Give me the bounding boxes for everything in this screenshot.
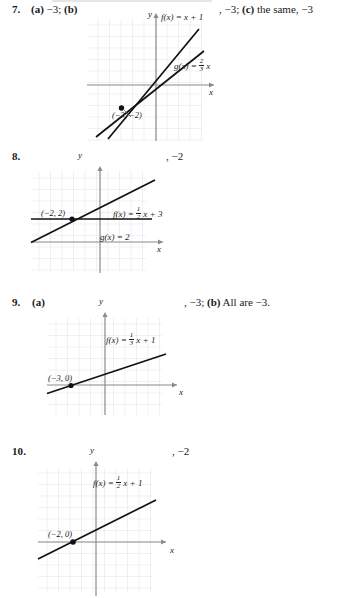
graph-8-f-label-suffix: x + 3 xyxy=(143,209,162,219)
graph-8-f-fraction: 1 2 xyxy=(136,206,142,221)
graph-9-y-axis-label: y xyxy=(99,296,103,306)
answer-item-9: 9. (a) , −3; (b) All are −3. xyxy=(0,293,344,413)
y-axis-arrow-9 xyxy=(102,312,107,317)
graph-10-f-fraction: 1 2 xyxy=(116,475,122,490)
grid-8 xyxy=(31,171,146,271)
graph-9-f-label-suffix: x + 1 xyxy=(136,335,155,345)
item-7-answer-b: , −3; xyxy=(219,3,242,15)
graph-8-f-numerator: 1 xyxy=(136,206,142,213)
graph-8-point-label: (−2, 2) xyxy=(41,208,65,218)
x-intercept-point-10 xyxy=(70,539,76,545)
graph-7-f-label-text: f(x) = x + 1 xyxy=(161,12,203,22)
x-axis-arrow-9 xyxy=(172,382,177,387)
graph-10-x-axis-label: x xyxy=(170,545,174,555)
item-9-right-text: , −3; (b) All are −3. xyxy=(184,296,270,308)
item-number-7: 7. xyxy=(12,3,20,15)
graph-9-f-fraction: 1 3 xyxy=(129,332,135,347)
graph-8-g-label: g(x) = 2 xyxy=(100,232,130,242)
graph-8-f-denominator: 2 xyxy=(136,214,142,221)
item-9-part-b-tag: (b) xyxy=(207,296,220,308)
graph-9-f-label-prefix: f(x) = xyxy=(106,335,127,345)
item-7-answer-c: the same, −3 xyxy=(254,3,313,15)
item-7-right-text: , −3; (c) the same, −3 xyxy=(219,3,313,15)
graph-10-f-denominator: 2 xyxy=(116,483,122,490)
graph-7-y-axis-label: y xyxy=(148,9,152,19)
graph-7-g-numerator: 2 xyxy=(199,58,205,65)
graph-9-point-label: (−3, 0) xyxy=(48,373,72,383)
graph-7-g-denominator: 3 xyxy=(199,66,205,73)
graph-7-g-label-suffix: x xyxy=(206,61,210,71)
y-axis-arrow-8 xyxy=(97,166,102,171)
intersection-point-8 xyxy=(69,216,74,221)
graph-7-g-label-prefix: g(x) = xyxy=(174,61,197,71)
item-number-9: 9. xyxy=(12,296,20,308)
graph-8-f-label-prefix: f(x) = xyxy=(113,209,134,219)
graph-7-f-label: f(x) = x + 1 xyxy=(161,12,203,22)
graph-9-f-numerator: 1 xyxy=(129,332,135,339)
graph-9-f-denominator: 3 xyxy=(129,340,135,347)
graph-7-g-label: g(x) = 2 3 x xyxy=(174,58,210,73)
graph-8-y-axis-label: y xyxy=(78,150,82,160)
graph-7-svg xyxy=(86,13,222,143)
answer-key-page: 7. (a) −3; (b) , −3; (c) the same, −3 xyxy=(0,0,344,598)
graph-8-f-label: f(x) = 1 2 x + 3 xyxy=(113,206,162,221)
item-number-8: 8. xyxy=(12,150,20,162)
item-9-answer-b: All are −3. xyxy=(220,296,270,308)
x-intercept-point-9 xyxy=(68,383,73,388)
graph-9-f-label: f(x) = 1 3 x + 1 xyxy=(106,332,155,347)
graph-7-x-axis-label: x xyxy=(209,87,213,97)
answer-item-10: 10. , −2 f(x) = xyxy=(0,442,344,598)
item-number-10: 10. xyxy=(12,445,26,457)
answer-item-7: 7. (a) −3; (b) , −3; (c) the same, −3 xyxy=(0,0,344,145)
y-axis-arrow-10 xyxy=(93,461,98,466)
graph-8-x-axis-label: x xyxy=(157,244,161,254)
item-9-left-text: (a) xyxy=(32,296,45,308)
graph-7-point-label: (−3, −2) xyxy=(112,110,142,120)
item-8-right-text: , −2 xyxy=(166,150,183,162)
y-axis-arrow-7 xyxy=(153,13,158,18)
graph-7-g-fraction: 2 3 xyxy=(199,58,205,73)
item-7-part-b-tag: (b) xyxy=(64,3,77,15)
graph-10-f-label: f(x) = 1 2 x + 1 xyxy=(93,475,142,490)
item-7-part-a-tag: (a) xyxy=(31,3,44,15)
graph-item-7 xyxy=(86,13,222,143)
item-9-part-a-tag: (a) xyxy=(32,296,45,308)
graph-10-y-axis-label: y xyxy=(90,445,94,455)
graph-10-f-label-prefix: f(x) = xyxy=(93,478,114,488)
item-9-answer-a: , −3; xyxy=(184,296,207,308)
graph-9-x-axis-label: x xyxy=(179,387,183,397)
graph-10-f-label-suffix: x + 1 xyxy=(123,478,142,488)
graph-9-svg xyxy=(44,312,194,415)
item-7-part-a-value: −3; xyxy=(44,3,64,15)
answer-item-8: 8. , −2 xyxy=(0,148,344,273)
graph-10-f-numerator: 1 xyxy=(116,475,122,482)
item-10-right-text: , −2 xyxy=(172,445,189,457)
grid-7 xyxy=(87,19,202,141)
x-axis-arrow-10 xyxy=(161,539,166,544)
graph-item-9 xyxy=(44,312,194,415)
item-7-part-c-tag: (c) xyxy=(242,3,254,15)
item-7-left-text: (a) −3; (b) xyxy=(31,3,78,15)
graph-10-point-label: (−2, 0) xyxy=(48,529,72,539)
